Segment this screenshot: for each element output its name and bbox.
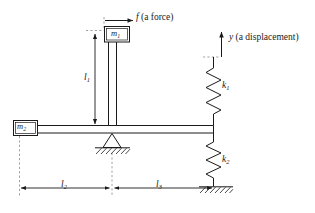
spring-k2-label: k2 <box>222 155 229 165</box>
horizontal-beam <box>37 126 214 134</box>
spring-k1-label: k1 <box>222 81 229 91</box>
length-l1-label: l1 <box>84 73 90 83</box>
force-label: f (a force) <box>136 13 173 23</box>
length-l3-label: l3 <box>156 180 162 190</box>
fulcrum-pivot <box>95 134 130 148</box>
construction-dashed-lines <box>20 17 220 196</box>
ground-hatch-fulcrum <box>96 148 130 154</box>
vertical-rod <box>109 42 117 126</box>
displacement-label: y (a displacement) <box>229 33 299 43</box>
mechanical-system-diagram: f (a force) y (a displacement) m1 m2 k1 … <box>0 0 315 213</box>
mass-m2-label: m2 <box>17 122 26 132</box>
spring-k1 <box>206 57 221 126</box>
spring-k2 <box>206 133 221 187</box>
mass-m1-label: m1 <box>111 29 120 39</box>
length-l2-label: l2 <box>61 180 67 190</box>
